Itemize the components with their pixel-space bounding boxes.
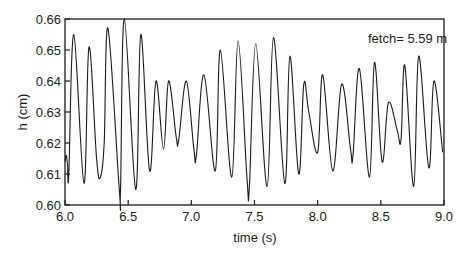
- fetch-annotation: fetch= 5.59 m: [368, 31, 447, 46]
- y-tick-label: 0.61: [36, 167, 61, 182]
- x-tick-label: 8.0: [309, 209, 327, 224]
- y-tick-label: 0.66: [36, 12, 61, 27]
- x-tick-label: 6.5: [119, 209, 137, 224]
- y-axis-label: h (cm): [15, 94, 30, 131]
- x-tick-label: 7.5: [245, 209, 263, 224]
- wave-height-chart: 0.600.610.620.630.640.650.66 6.06.57.07.…: [0, 0, 470, 254]
- x-tick-label: 7.0: [182, 209, 200, 224]
- x-tick-label: 8.5: [372, 209, 390, 224]
- y-tick-label: 0.65: [36, 43, 61, 58]
- wave-height-line: [65, 19, 443, 210]
- x-axis-ticks: 6.06.57.07.58.08.59.0: [56, 200, 453, 224]
- y-tick-label: 0.64: [36, 74, 61, 89]
- y-tick-label: 0.62: [36, 136, 61, 151]
- x-tick-label: 6.0: [56, 209, 74, 224]
- y-tick-label: 0.63: [36, 105, 61, 120]
- x-tick-label: 9.0: [435, 209, 453, 224]
- x-axis-label: time (s): [233, 230, 276, 245]
